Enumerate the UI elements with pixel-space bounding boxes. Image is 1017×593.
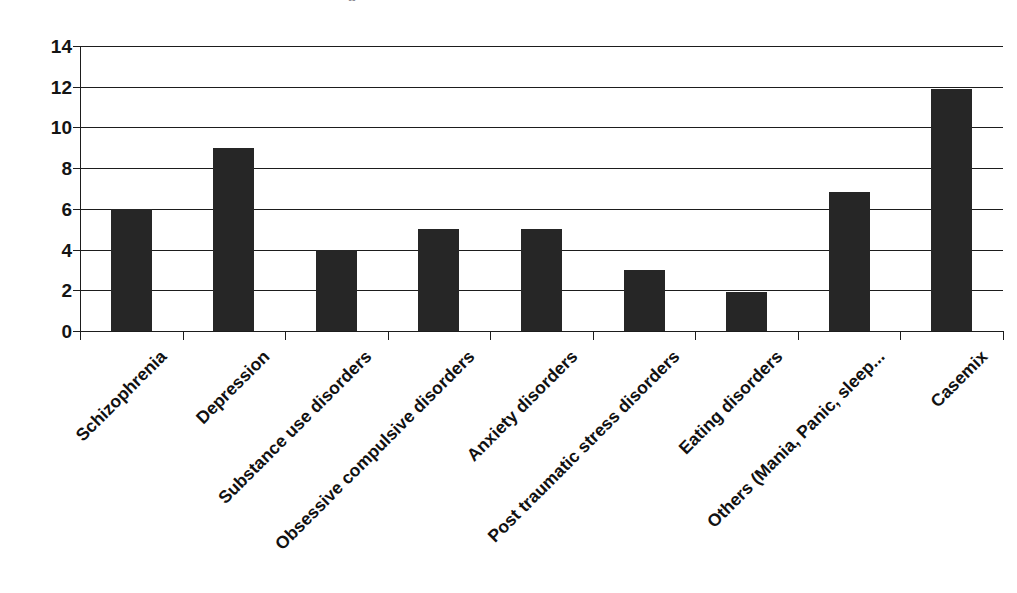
bar: [624, 270, 665, 331]
y-tick-mark-8: [73, 168, 80, 169]
y-tick-mark-4: [73, 250, 80, 251]
y-tick-label-12: 12: [32, 78, 72, 97]
y-tick-mark-2: [73, 290, 80, 291]
plot-area: [80, 46, 1003, 331]
y-tick-mark-10: [73, 127, 80, 128]
gridline-14: [80, 46, 1003, 47]
bar: [829, 192, 870, 331]
x-category-label: Schizophrenia: [73, 347, 171, 445]
x-category-label: Anxiety disorders: [463, 347, 581, 465]
y-axis-tick-labels: 02468101214: [22, 46, 72, 331]
x-category-label: Casemix: [927, 347, 992, 412]
x-category-label: Eating disorders: [675, 347, 786, 458]
bar: [213, 148, 254, 331]
x-category-label: Depression: [192, 347, 273, 428]
y-tick-label-8: 8: [32, 159, 72, 178]
y-tick-mark-14: [73, 46, 80, 47]
bar: [726, 292, 767, 331]
gridline-10: [80, 127, 1003, 128]
bar: [418, 229, 459, 331]
cropped-title-remnant: g: [348, 0, 356, 1]
y-tick-mark-12: [73, 87, 80, 88]
y-tick-label-2: 2: [32, 281, 72, 300]
x-category-label: Post traumatic stress disorders: [484, 347, 683, 546]
y-tick-label-14: 14: [32, 37, 72, 56]
bar: [316, 250, 357, 331]
x-category-label: Others (Mania, Panic, sleep...: [704, 347, 889, 532]
x-axis-category-labels: SchizophreniaDepressionSubstance use dis…: [0, 331, 1017, 593]
bar: [931, 89, 972, 331]
y-tick-label-4: 4: [32, 241, 72, 260]
gridline-12: [80, 87, 1003, 88]
y-axis-line: [80, 46, 81, 331]
x-category-label: Obsessive compulsive disorders: [272, 347, 479, 554]
bar: [521, 229, 562, 331]
y-tick-label-6: 6: [32, 200, 72, 219]
y-tick-label-10: 10: [32, 118, 72, 137]
y-tick-mark-6: [73, 209, 80, 210]
bar-chart-figure: g 02468101214 SchizophreniaDepressionSub…: [0, 0, 1017, 593]
bar: [111, 209, 152, 331]
